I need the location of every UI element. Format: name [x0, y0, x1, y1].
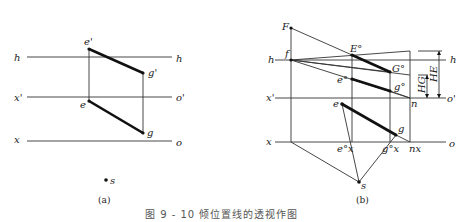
label-e0: e°: [337, 74, 348, 85]
label-HG: HG: [416, 76, 427, 94]
label-ex0: e°x: [337, 143, 354, 154]
label-oprime-b: o': [447, 93, 456, 104]
label-G0: G°: [392, 63, 405, 74]
label-g0: g°: [394, 81, 405, 92]
point-e-prime-a: [87, 47, 90, 50]
label-xprime-a: x': [14, 92, 22, 103]
label-g-prime-a: g': [148, 67, 157, 78]
arrow-HE-bottom: [437, 94, 441, 98]
perspective-diagram: h h x' o' x o e' g' e g s (a): [0, 0, 468, 222]
label-oprime-a: o': [176, 92, 185, 103]
label-g-b: g: [398, 123, 404, 134]
point-e-b: [340, 102, 344, 106]
label-o-a: o: [176, 137, 182, 148]
label-h-right-a: h: [176, 53, 182, 64]
point-g-a: [141, 131, 144, 134]
label-h-right-b: h: [450, 54, 456, 65]
point-g0: [388, 89, 391, 92]
label-HE: HE: [428, 65, 439, 83]
line-g-nx: [396, 135, 410, 142]
label-o-b: o: [449, 138, 455, 149]
point-F: [289, 26, 292, 29]
label-s-a: s: [110, 175, 115, 186]
panel-b: h h x' o' x o F f E° G° e° g° e g e°x g°…: [266, 21, 456, 205]
line-F-E: [291, 28, 352, 55]
panel-label-b: (b): [356, 195, 369, 205]
arrow-HE-top: [437, 51, 441, 55]
arrow-HG-bottom: [425, 94, 429, 98]
label-xprime-b: x': [266, 92, 274, 103]
label-e-b: e: [333, 98, 339, 109]
label-e-a: e: [80, 99, 86, 110]
point-e0: [350, 77, 353, 80]
label-E0: E°: [349, 43, 362, 54]
line-eg-prime-a: [89, 49, 143, 73]
line-e-g-b: [342, 104, 396, 135]
label-f: f: [284, 48, 291, 59]
panel-a: h h x' o' x o e' g' e g s (a): [14, 36, 185, 205]
label-g-a: g: [147, 127, 153, 138]
point-g-prime-a: [141, 71, 144, 74]
label-s-b: s: [361, 180, 366, 191]
label-h-left-b: h: [268, 54, 274, 65]
point-e-a: [87, 99, 90, 102]
panel-label-a: (a): [98, 195, 110, 205]
label-x-a: x: [14, 134, 20, 145]
line-g0-n: [390, 91, 410, 98]
line-eg-a: [89, 101, 143, 133]
point-f: [289, 58, 292, 61]
label-gx0: g°x: [382, 143, 399, 154]
label-nx: nx: [409, 143, 421, 154]
point-s-a: [104, 178, 108, 182]
line-e0-g0: [352, 79, 390, 91]
label-n: n: [411, 98, 417, 109]
label-F: F: [281, 21, 290, 32]
label-e-prime-a: e': [84, 36, 93, 47]
figure-caption: 图 9 - 10 倾位置线的透视作图: [145, 208, 298, 220]
label-x-b: x: [266, 136, 272, 147]
label-h-left-a: h: [14, 52, 20, 63]
